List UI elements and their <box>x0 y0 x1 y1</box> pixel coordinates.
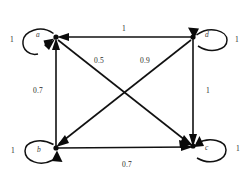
weight-edge-a-c: 0.5 <box>94 57 104 65</box>
node-dot-c[interactable] <box>190 143 195 148</box>
node-label-b: b <box>37 146 41 154</box>
weight-edge-d-c: 1 <box>206 87 210 95</box>
edge-b-c-line <box>58 147 190 148</box>
node-label-c: c <box>205 144 208 152</box>
node-label-d: d <box>205 31 209 39</box>
weight-edge-b-a: 0.7 <box>33 87 43 95</box>
node-dot-a[interactable] <box>53 34 58 39</box>
weight-self-loop-b: 1 <box>11 147 15 155</box>
weight-self-loop-d: 1 <box>235 36 239 44</box>
arrowhead-self-loop-b <box>52 151 63 163</box>
graph-figure: a d b c 1 1 1 1 1 0.7 1 0.7 0.5 0.9 <box>0 0 249 177</box>
weight-edge-b-c: 0.7 <box>122 161 132 169</box>
weight-edge-d-a: 1 <box>122 25 126 33</box>
self-loop-d <box>197 30 228 51</box>
weight-self-loop-a: 1 <box>10 36 14 44</box>
weight-edge-d-b: 0.9 <box>140 57 150 65</box>
weight-self-loop-c: 1 <box>236 145 240 153</box>
node-label-a: a <box>36 31 40 39</box>
node-dot-b[interactable] <box>53 145 58 150</box>
node-dot-d[interactable] <box>190 34 195 39</box>
